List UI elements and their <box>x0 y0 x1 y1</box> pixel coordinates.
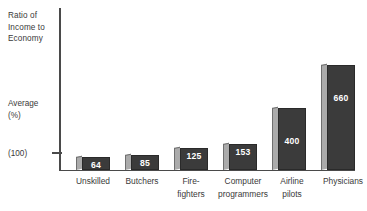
bar-fire-fighters: 125 <box>174 148 208 170</box>
y-axis-title-line-1: Ratio of <box>8 10 58 22</box>
y-axis-average-label: Average (%) <box>8 98 58 121</box>
y-axis-title: Ratio of Income to Economy <box>8 10 58 45</box>
bar-front-face: 64 <box>82 157 110 170</box>
bar-airline-pilots: 400 <box>272 108 306 170</box>
bar-value-label: 400 <box>279 136 305 146</box>
bar-front-face: 125 <box>180 148 208 170</box>
bar-value-label: 153 <box>230 147 256 157</box>
average-label-line-1: Average <box>8 98 58 110</box>
bar-physicians: 660 <box>321 65 355 170</box>
category-label-line: Physicians <box>307 175 367 188</box>
bar-front-face: 85 <box>131 155 159 170</box>
bar-front-face: 153 <box>229 144 257 170</box>
y-axis-title-line-3: Economy <box>8 33 58 45</box>
bar-value-label: 660 <box>328 93 354 103</box>
bar-chart: Ratio of Income to Economy Average (%) (… <box>0 0 367 211</box>
bar-value-label: 64 <box>83 160 109 170</box>
bar-computer-programmers: 153 <box>223 144 257 170</box>
y-axis-hundred-label: (100) <box>8 148 27 159</box>
bar-front-face: 400 <box>278 108 306 170</box>
bar-front-face: 660 <box>327 65 355 170</box>
plot-area: 64 85 125 153 400 <box>59 8 355 170</box>
average-label-line-2: (%) <box>8 110 58 122</box>
bar-value-label: 125 <box>181 151 207 161</box>
category-label-physicians: Physicians <box>307 175 367 188</box>
bar-butchers: 85 <box>125 155 159 170</box>
y-axis-title-line-2: Income to <box>8 22 58 34</box>
x-axis-category-labels: Unskilled Butchers Fire- fighters Comput… <box>59 175 359 211</box>
bar-unskilled: 64 <box>76 157 110 170</box>
bar-value-label: 85 <box>132 158 158 168</box>
category-label-line: pilots <box>261 188 323 201</box>
